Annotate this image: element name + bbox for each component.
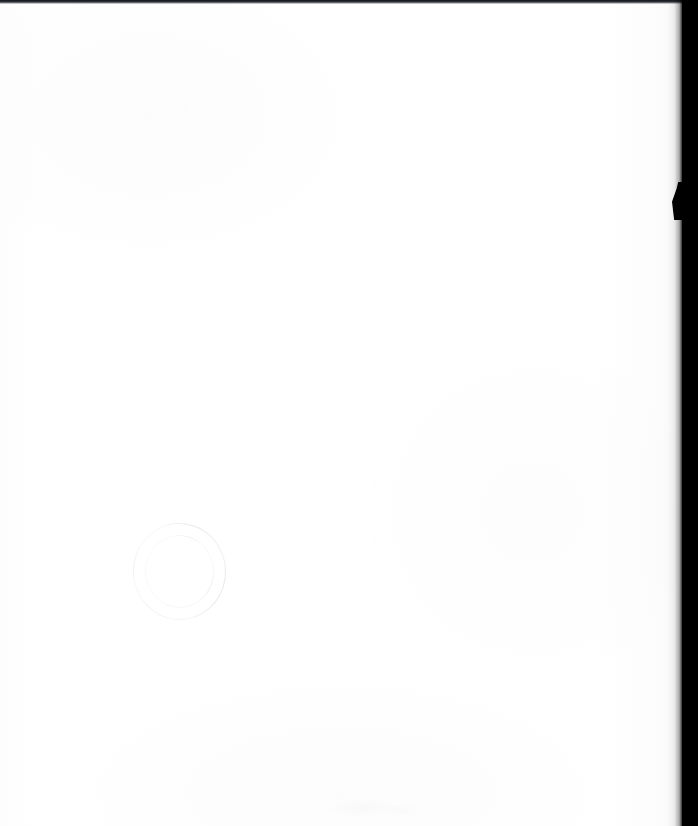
bottom-smudge [332, 792, 440, 822]
right-scan-edge [682, 0, 698, 826]
scanned-page [0, 0, 698, 826]
top-scan-edge [0, 0, 698, 4]
paper-tone-texture [0, 0, 682, 826]
stamp-arc-text-group [130, 520, 230, 623]
rubber-stamp [130, 520, 230, 623]
paper-sheet [0, 0, 682, 826]
